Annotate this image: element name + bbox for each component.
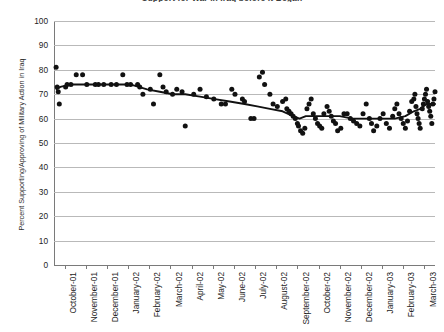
x-tick-label-5: March-02 xyxy=(174,272,184,307)
x-tick-label-7: May-02 xyxy=(216,272,226,300)
x-tick-label-14: December-02 xyxy=(364,272,374,322)
x-tick-label-2: December-01 xyxy=(110,272,120,322)
y-tick-label-10: 10 xyxy=(8,236,48,246)
x-axis-tick-labels: October-01November-01December-01January-… xyxy=(54,0,435,332)
x-tick-label-10: August-02 xyxy=(279,272,289,310)
x-tick-label-9: July-02 xyxy=(258,272,268,299)
x-tick-label-16: February-03 xyxy=(406,272,416,317)
x-tick-label-8: June-02 xyxy=(237,272,247,302)
chart-container: Support for War in Iraq before it Began … xyxy=(0,0,444,332)
y-axis-tick-labels: 1009080706050403020100 xyxy=(0,0,48,244)
y-tick-label-80: 80 xyxy=(8,65,48,75)
y-tick-label-100: 100 xyxy=(8,16,48,26)
x-tick-label-11: September-02 xyxy=(301,272,311,325)
x-tick-label-15: January-03 xyxy=(385,272,395,314)
x-tick-label-13: November-02 xyxy=(343,272,353,322)
y-tick-label-90: 90 xyxy=(8,40,48,50)
y-tick-label-30: 30 xyxy=(8,187,48,197)
x-tick-label-12: October-02 xyxy=(322,272,332,314)
y-tick-label-60: 60 xyxy=(8,114,48,124)
x-tick-label-0: October-01 xyxy=(68,272,78,314)
y-tick-label-0: 0 xyxy=(8,260,48,270)
y-tick-label-40: 40 xyxy=(8,162,48,172)
x-tick-label-17: March-03 xyxy=(428,272,438,307)
x-tick-label-1: November-01 xyxy=(89,272,99,322)
y-tick-label-70: 70 xyxy=(8,89,48,99)
y-tick-label-20: 20 xyxy=(8,211,48,221)
x-tick-label-4: February-02 xyxy=(152,272,162,317)
x-tick-label-3: January-02 xyxy=(131,272,141,314)
x-tick-label-6: April-02 xyxy=(195,272,205,301)
y-tick-label-50: 50 xyxy=(8,138,48,148)
